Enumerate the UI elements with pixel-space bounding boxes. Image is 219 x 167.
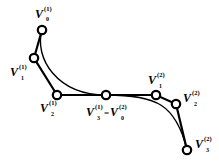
point-v3-2 — [183, 146, 191, 154]
svg-text:V: V — [110, 105, 119, 119]
svg-text:(2): (2) — [157, 71, 165, 79]
label-v0-1: V (1) 0 — [35, 5, 52, 22]
svg-text:0: 0 — [121, 115, 124, 121]
svg-text:3: 3 — [206, 147, 209, 153]
svg-text:V: V — [40, 101, 49, 115]
point-v1-2 — [152, 91, 160, 99]
svg-text:=: = — [104, 108, 109, 118]
svg-text:1: 1 — [21, 75, 24, 81]
svg-text:V: V — [86, 105, 95, 119]
svg-text:(1): (1) — [44, 5, 52, 13]
svg-text:V: V — [10, 65, 19, 79]
label-v2-1: V (1) 2 — [40, 99, 57, 117]
svg-text:2: 2 — [51, 111, 54, 117]
svg-text:3: 3 — [97, 115, 100, 121]
svg-text:0: 0 — [46, 16, 49, 22]
label-v3-2: V (2) 3 — [195, 135, 212, 153]
svg-text:(1): (1) — [49, 99, 57, 107]
point-v0-1 — [38, 26, 46, 34]
label-v1-1: V (1) 1 — [10, 63, 27, 81]
svg-text:2: 2 — [194, 101, 197, 107]
svg-text:(2): (2) — [204, 135, 212, 143]
label-joint-v3-1-equals-v0-2: V (1) 3 = V (2) 0 — [86, 103, 127, 121]
label-v2-2: V (2) 2 — [183, 89, 200, 107]
svg-text:(1): (1) — [19, 63, 27, 71]
svg-text:(2): (2) — [119, 103, 127, 111]
point-v2-1 — [53, 91, 61, 99]
svg-text:(2): (2) — [192, 89, 200, 97]
control-polygon-1 — [34, 30, 106, 95]
bezier-diagram: V (1) 0 V (1) 1 V (1) 2 V (1) 3 = V (2) … — [0, 0, 219, 167]
svg-text:V: V — [183, 91, 192, 105]
svg-text:V: V — [195, 137, 204, 151]
point-v3-1 — [102, 91, 110, 99]
point-v2-2 — [172, 100, 180, 108]
svg-text:(1): (1) — [95, 103, 103, 111]
label-v1-2: V (2) 1 — [148, 71, 165, 89]
svg-text:V: V — [35, 7, 44, 21]
svg-text:V: V — [148, 73, 157, 87]
point-v1-1 — [30, 54, 38, 62]
svg-text:1: 1 — [159, 83, 162, 89]
